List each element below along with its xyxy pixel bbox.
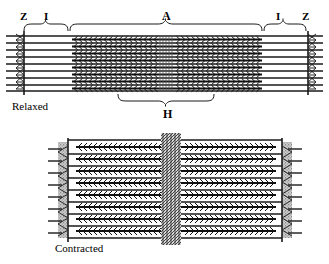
panel-contracted: [48, 133, 302, 245]
thin-filaments-relaxed: [6, 36, 323, 91]
bracket-a-band: [70, 19, 262, 32]
bracket-h-zone: [118, 94, 214, 107]
bracket-i-right: [264, 19, 306, 32]
sarcomere-drawing: [0, 0, 329, 264]
panel-relaxed: [6, 31, 323, 95]
figure-root: Z I A I Z H Relaxed Contracted: [0, 0, 329, 264]
bracket-i-left: [24, 19, 68, 32]
